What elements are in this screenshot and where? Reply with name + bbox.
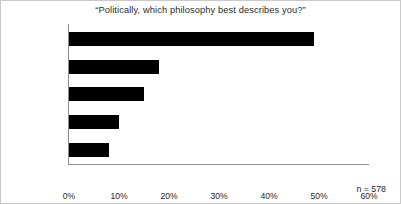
x-axis-line [68, 164, 369, 165]
x-tick-label: 40% [260, 191, 277, 201]
bar-arab-nationalist [69, 87, 144, 101]
x-tick-label: 30% [210, 191, 227, 201]
x-tick-label: 10% [110, 191, 127, 201]
chart-figure: “Politically, which philosophy best desc… [0, 0, 401, 204]
sample-size-note: n = 578 [356, 184, 386, 194]
bar-other [69, 60, 159, 74]
plot-area: Democrat Other Arab nationalist Islamist… [69, 25, 369, 164]
bar-islamist [69, 115, 119, 129]
chart-title: “Politically, which philosophy best desc… [1, 5, 400, 15]
x-tick-label: 50% [310, 191, 327, 201]
bar-nationalist [69, 143, 109, 157]
bar-row: Other [69, 53, 369, 81]
bar-row: Nationalist [69, 136, 369, 164]
bar-row: Arab nationalist [69, 81, 369, 109]
x-tick-label: 0% [63, 191, 75, 201]
bar-democrat [69, 32, 314, 46]
bar-row: Democrat [69, 25, 369, 53]
x-tick-label: 20% [160, 191, 177, 201]
bar-row: Islamist [69, 108, 369, 136]
